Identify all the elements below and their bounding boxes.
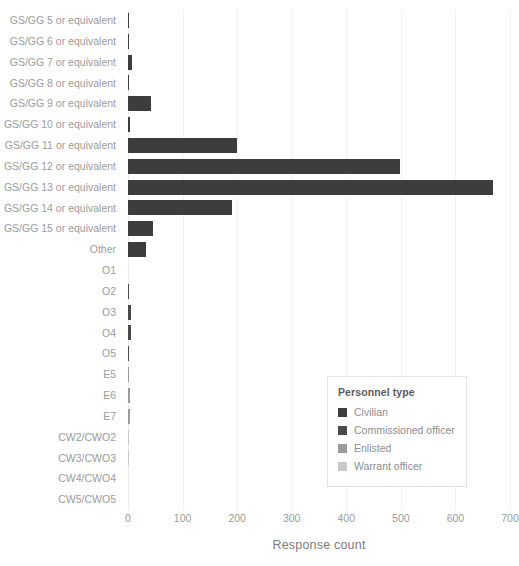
legend-item-label: Warrant officer	[354, 460, 422, 472]
bar	[128, 200, 232, 215]
bar-row	[128, 135, 510, 156]
y-tick-label: GS/GG 14 or equivalent	[4, 198, 116, 219]
bar-row	[128, 218, 510, 239]
bar-row	[128, 10, 510, 31]
bar-row	[128, 343, 510, 364]
bar-row	[128, 156, 510, 177]
legend-swatch-icon	[338, 462, 347, 471]
y-tick-label: O2	[102, 281, 116, 302]
bar	[128, 55, 132, 70]
bar-row	[128, 52, 510, 73]
bar-row	[128, 93, 510, 114]
legend-swatch-icon	[338, 408, 347, 417]
legend-item-label: Civilian	[354, 406, 388, 418]
bar	[128, 367, 129, 382]
x-tick-label: 300	[283, 512, 301, 524]
bar	[128, 430, 129, 445]
legend-swatch-icon	[338, 426, 347, 435]
bar	[128, 325, 131, 340]
bar-row	[128, 73, 510, 94]
y-tick-label: O1	[102, 260, 116, 281]
legend-title: Personnel type	[338, 386, 456, 398]
y-tick-label: GS/GG 15 or equivalent	[4, 218, 116, 239]
bar-row	[128, 260, 510, 281]
x-tick-label: 0	[125, 512, 131, 524]
y-tick-label: GS/GG 8 or equivalent	[10, 73, 116, 94]
legend-item-label: Commissioned officer	[354, 424, 455, 436]
y-tick-label: CW5/CWO5	[58, 489, 116, 510]
bar	[128, 305, 131, 320]
y-tick-label: CW4/CWO4	[58, 468, 116, 489]
legend-item[interactable]: Warrant officer	[338, 458, 456, 474]
bar	[128, 75, 129, 90]
bar	[128, 159, 400, 174]
y-tick-label: E7	[103, 406, 116, 427]
bar	[128, 346, 129, 361]
gridline-700	[510, 10, 511, 510]
y-tick-label: Other	[90, 239, 116, 260]
bar	[128, 13, 129, 28]
y-tick-label: GS/GG 13 or equivalent	[4, 177, 116, 198]
y-tick-label: O4	[102, 323, 116, 344]
bar	[128, 138, 237, 153]
y-tick-label: GS/GG 12 or equivalent	[4, 156, 116, 177]
bar-row	[128, 302, 510, 323]
x-tick-label: 100	[174, 512, 192, 524]
x-axis-title: Response count	[128, 538, 510, 552]
legend-swatch-icon	[338, 444, 347, 453]
bar-row	[128, 489, 510, 510]
bar	[128, 34, 129, 49]
y-tick-label: E5	[103, 364, 116, 385]
y-tick-label: GS/GG 5 or equivalent	[10, 10, 116, 31]
y-tick-label: E6	[103, 385, 116, 406]
bar	[128, 242, 146, 257]
y-tick-label: GS/GG 10 or equivalent	[4, 114, 116, 135]
x-tick-label: 700	[501, 512, 519, 524]
x-tick-label: 200	[228, 512, 246, 524]
y-axis: GS/GG 5 or equivalentGS/GG 6 or equivale…	[0, 10, 122, 510]
y-tick-label: O5	[102, 343, 116, 364]
bar	[128, 284, 129, 299]
bar	[128, 96, 151, 111]
legend-item-label: Enlisted	[354, 442, 391, 454]
legend-item[interactable]: Commissioned officer	[338, 422, 456, 438]
legend-item[interactable]: Enlisted	[338, 440, 456, 456]
y-tick-label: GS/GG 7 or equivalent	[10, 52, 116, 73]
bar	[128, 180, 493, 195]
bar-row	[128, 177, 510, 198]
bar	[128, 221, 153, 236]
legend-items: CivilianCommissioned officerEnlistedWarr…	[338, 404, 456, 474]
bar-row	[128, 239, 510, 260]
bar-row	[128, 114, 510, 135]
x-tick-label: 400	[338, 512, 356, 524]
y-tick-label: GS/GG 6 or equivalent	[10, 31, 116, 52]
bar	[128, 409, 130, 424]
y-tick-label: CW2/CWO2	[58, 427, 116, 448]
bar-row	[128, 198, 510, 219]
y-tick-label: O3	[102, 302, 116, 323]
bar	[128, 117, 130, 132]
bar	[128, 450, 129, 465]
legend: Personnel type CivilianCommissioned offi…	[327, 376, 467, 487]
bar-row	[128, 323, 510, 344]
x-tick-label: 600	[447, 512, 465, 524]
bar-row	[128, 281, 510, 302]
y-tick-label: GS/GG 11 or equivalent	[5, 135, 116, 156]
x-tick-label: 500	[392, 512, 410, 524]
bar-row	[128, 31, 510, 52]
legend-item[interactable]: Civilian	[338, 404, 456, 420]
x-axis: 0100200300400500600700	[128, 510, 510, 534]
y-tick-label: GS/GG 9 or equivalent	[10, 93, 116, 114]
bar	[128, 388, 130, 403]
y-tick-label: CW3/CWO3	[58, 448, 116, 469]
